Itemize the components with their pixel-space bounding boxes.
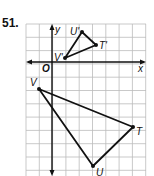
y-axis-up-arrow-icon [50, 24, 55, 30]
label-v: V [30, 77, 38, 88]
label-t-prime: T' [99, 40, 108, 51]
vertex-u-prime [80, 30, 84, 34]
coordinate-plane: y x O U' T' V' V T U [0, 0, 154, 176]
y-axis-down-arrow-icon [50, 170, 55, 176]
vertex-v-prime [63, 56, 67, 60]
vertex-t [131, 125, 135, 129]
y-axis [50, 24, 55, 176]
origin-label: O [42, 63, 50, 74]
grid [26, 24, 146, 176]
y-axis-label: y [54, 24, 61, 35]
label-v-prime: V' [54, 52, 64, 63]
x-axis-label: x [137, 63, 144, 74]
label-t: T [136, 126, 143, 137]
vertex-u [91, 164, 95, 168]
label-u: U [96, 167, 104, 176]
vertex-t-prime [94, 43, 98, 47]
label-u-prime: U' [70, 26, 80, 37]
vertex-v [37, 87, 41, 91]
